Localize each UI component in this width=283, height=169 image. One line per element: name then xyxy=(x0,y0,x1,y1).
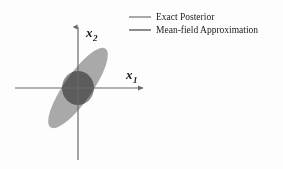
figure-panel: x2 x1 Exact Posterior Mean-field Approxi… xyxy=(0,0,283,169)
legend-label-mean-field-approximation: Mean-field Approximation xyxy=(156,25,258,36)
y-axis-label-subscript: 2 xyxy=(92,33,98,43)
legend-swatch-mean-field-approximation xyxy=(129,29,151,31)
legend-item-mean-field-approximation: Mean-field Approximation xyxy=(129,24,281,36)
y-axis-label: x2 xyxy=(85,25,98,43)
x-axis-label-subscript: 1 xyxy=(133,75,138,85)
legend-label-exact-posterior: Exact Posterior xyxy=(156,12,214,23)
legend: Exact Posterior Mean-field Approximation xyxy=(129,11,281,37)
legend-swatch-exact-posterior xyxy=(129,16,151,18)
x-axis-label: x1 xyxy=(125,67,138,85)
legend-item-exact-posterior: Exact Posterior xyxy=(129,11,281,23)
